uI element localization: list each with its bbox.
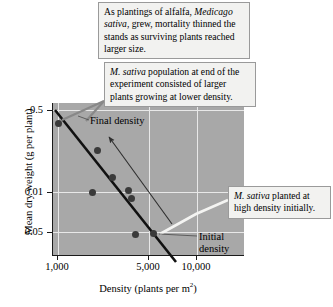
- data-point: [55, 120, 62, 127]
- callout-middle-species-name: M. sativa: [110, 66, 146, 77]
- callout-box-middle: M. sativa population at end of the exper…: [104, 62, 256, 107]
- data-point: [125, 187, 132, 194]
- callout-top-text-1: As plantings of alfalfa,: [104, 6, 194, 17]
- annotation-initial-density-line1: Initial: [199, 231, 229, 243]
- data-point: [128, 195, 135, 202]
- data-point: [94, 147, 101, 154]
- data-point: [89, 189, 96, 196]
- x-tick-10000: [196, 255, 197, 260]
- x-tick-label-0: 1,000: [29, 262, 85, 273]
- data-point: [109, 174, 116, 181]
- annotation-initial-density: Initial density: [199, 231, 229, 255]
- x-tick-label-2: 10,000: [168, 262, 224, 273]
- x-tick-5000: [148, 255, 149, 260]
- y-tick-0.5: [47, 110, 52, 111]
- callout-right-species-name: M. sativa: [234, 190, 270, 201]
- x-tick-1000: [57, 255, 58, 260]
- x-axis-title: Density (plants per m2): [52, 281, 244, 294]
- callout-box-right: M. sativa planted at high density initia…: [228, 186, 331, 219]
- gridline-x-10000: [197, 103, 198, 255]
- data-point: [132, 231, 139, 238]
- annotation-initial-density-line2: density: [199, 243, 229, 255]
- x-axis-title-main: Density (plants per m: [99, 283, 190, 294]
- annotation-final-density: Final density: [90, 115, 145, 127]
- callout-box-top: As plantings of alfalfa, Medicago sativa…: [98, 2, 250, 59]
- x-axis-title-end: ): [193, 283, 197, 294]
- y-tick-0.05: [47, 232, 52, 233]
- y-axis-line: [52, 103, 53, 256]
- y-axis-title: Mean dry weight (g per plant): [23, 92, 34, 252]
- data-point: [150, 230, 157, 237]
- y-tick-0.01: [47, 192, 52, 193]
- self-thinning-figure: 0.5 0.01 0.05 1,000 5,000 10,000 Mean dr…: [0, 0, 333, 307]
